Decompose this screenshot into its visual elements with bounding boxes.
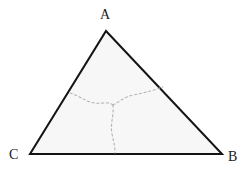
vertex-label-a: A (100, 8, 110, 22)
vertex-label-c: C (9, 148, 18, 162)
figure-canvas: A C B (0, 0, 250, 173)
vertex-label-b: B (228, 150, 237, 164)
triangle-diagram-svg (0, 0, 250, 173)
